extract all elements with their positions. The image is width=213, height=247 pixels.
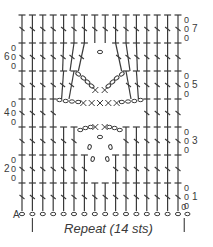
chain-symbol	[175, 212, 180, 215]
chain-symbol	[97, 135, 102, 138]
turning-chain: 0	[11, 173, 16, 183]
turning-chain: 0	[184, 145, 189, 155]
row-number: 7	[192, 23, 198, 34]
chain-symbol	[108, 144, 113, 150]
row-number: 3	[192, 135, 198, 146]
chain-symbol	[90, 156, 95, 162]
chain-symbol	[51, 212, 56, 215]
chain-symbol	[30, 212, 35, 215]
chain-symbol	[92, 212, 97, 215]
chain-symbol	[105, 156, 110, 162]
row-number: 1	[192, 191, 198, 202]
row-number: 2	[4, 163, 10, 174]
chain-symbol	[88, 125, 93, 128]
chain-symbol	[112, 126, 117, 129]
repeat-label: Repeat (14 sts)	[0, 221, 213, 236]
chain-symbol	[19, 212, 24, 215]
chain-symbol	[114, 75, 120, 81]
turning-chain: 0	[181, 202, 186, 212]
crochet-chart: A00010002000300040005000600070	[0, 0, 213, 247]
chain-symbol	[97, 50, 102, 53]
chain-symbol	[134, 212, 139, 215]
row-number: 6	[4, 51, 10, 62]
chain-symbol	[132, 99, 137, 102]
chain-symbol	[155, 212, 160, 215]
chain-symbol	[71, 212, 76, 215]
chain-symbol	[78, 128, 83, 131]
chain-symbol	[123, 212, 128, 215]
chain-symbol	[144, 212, 149, 215]
chain-symbol	[40, 212, 45, 215]
chain-symbol	[87, 144, 92, 150]
chain-symbol	[76, 100, 81, 103]
chain-symbol	[63, 99, 68, 102]
chain-symbol	[185, 212, 190, 215]
chain-symbol	[83, 126, 88, 129]
chain-symbol	[165, 212, 170, 215]
chain-symbol	[107, 125, 112, 128]
chain-symbol	[119, 100, 124, 103]
turning-chain: 0	[11, 61, 16, 71]
row-number: 4	[4, 107, 10, 118]
turning-chain: 0	[184, 89, 189, 99]
chain-symbol	[61, 212, 66, 215]
chain-symbol	[117, 128, 122, 131]
chain-symbol	[113, 212, 118, 215]
chain-symbol	[57, 98, 62, 101]
chain-symbol	[138, 98, 143, 101]
chain-symbol	[69, 100, 74, 103]
chain-symbol	[119, 71, 125, 77]
foundation-label: A	[13, 209, 20, 220]
turning-chain: 0	[11, 117, 16, 127]
chain-symbol	[75, 71, 81, 77]
chain-symbol	[103, 212, 108, 215]
row-number: 5	[192, 79, 198, 90]
turning-chain: 0	[184, 33, 189, 43]
chain-symbol	[82, 212, 87, 215]
chain-symbol	[125, 100, 130, 103]
